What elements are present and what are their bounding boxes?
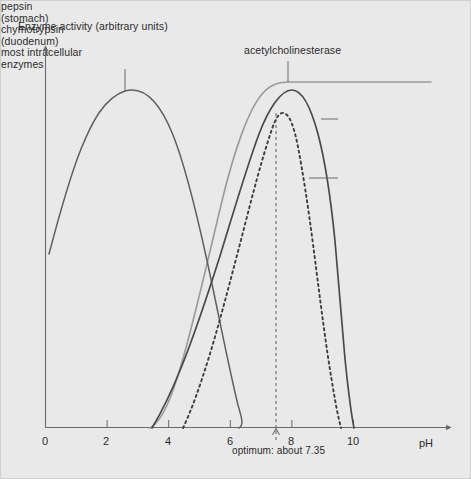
- chart-plot-area: [1, 1, 471, 479]
- enzyme-ph-activity-chart: Enzyme activity (arbitrary units) pepsin…: [0, 0, 471, 479]
- y-axis-title: Enzyme activity (arbitrary units): [18, 21, 168, 33]
- series-label-acetylcholinesterase: acetylcholinesterase: [244, 45, 341, 57]
- curve-acetylcholinesterase: [150, 82, 431, 428]
- x-axis-title: pH: [419, 437, 433, 449]
- curve-chymotrypsin: [152, 90, 354, 428]
- curve-intracellular-enzymes: [183, 113, 341, 428]
- x-tick-label-2: 2: [103, 435, 109, 447]
- curve-pepsin: [49, 90, 242, 428]
- x-tick-label-4: 4: [165, 435, 171, 447]
- x-tick-label-0: 0: [42, 435, 48, 447]
- x-axis-ticks: [46, 420, 354, 428]
- optimum-annotation-label: optimum: about 7.35: [232, 445, 325, 457]
- x-tick-label-10: 10: [347, 435, 359, 447]
